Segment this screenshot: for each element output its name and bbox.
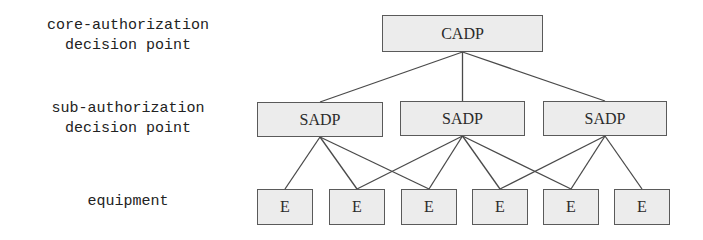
edge-line [605, 136, 642, 189]
node-sadp-2: SADP [400, 101, 525, 136]
edge-line [463, 52, 606, 101]
node-sadp-1: SADP [257, 102, 383, 137]
node-equipment-6: E [614, 189, 670, 225]
label-core-authorization-decision-point: core-authorization decision point [47, 16, 209, 56]
edge-line [320, 137, 357, 189]
label-sub-authorization-decision-point: sub-authorization decision point [51, 99, 204, 139]
edge-line [463, 136, 501, 189]
node-sadp-3: SADP [543, 101, 667, 136]
node-equipment-1: E [257, 189, 313, 225]
node-equipment-4: E [472, 189, 528, 225]
node-cadp: CADP [382, 15, 543, 52]
edge-line [320, 52, 463, 102]
node-equipment-2: E [329, 189, 385, 225]
edge-line [320, 137, 429, 189]
edge-line [285, 137, 320, 189]
authorization-hierarchy-diagram: core-authorization decision point sub-au… [0, 0, 703, 240]
label-equipment: equipment [87, 192, 168, 212]
node-equipment-5: E [543, 189, 599, 225]
node-equipment-3: E [401, 189, 457, 225]
